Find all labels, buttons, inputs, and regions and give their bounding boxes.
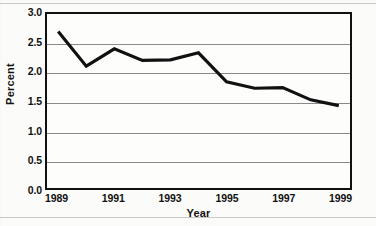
x-axis-tick-labels: 198919911993199519971999 [45,192,352,208]
y-axis-tick-labels: 0.00.51.01.52.02.53.0 [0,12,42,190]
scan-artifact-line-top [0,3,376,4]
x-tick-label: 1995 [205,192,249,204]
plot-area [45,12,352,190]
x-tick-label: 1999 [319,192,363,204]
y-tick-label: 2.0 [8,65,42,77]
x-tick-label: 1991 [91,192,135,204]
series-polyline [58,31,339,105]
y-tick-label: 1.5 [8,95,42,107]
chart-page: Percent 0.00.51.01.52.02.53.0 1989199119… [0,0,376,226]
y-tick-label: 3.0 [8,6,42,18]
series-line-chart [47,14,350,188]
x-axis-title: Year [45,207,352,219]
y-tick-label: 0.5 [8,154,42,166]
y-tick-label: 1.0 [8,125,42,137]
y-tick-label: 2.5 [8,36,42,48]
x-tick-label: 1993 [148,192,192,204]
x-tick-label: 1989 [34,192,78,204]
x-tick-label: 1997 [262,192,306,204]
